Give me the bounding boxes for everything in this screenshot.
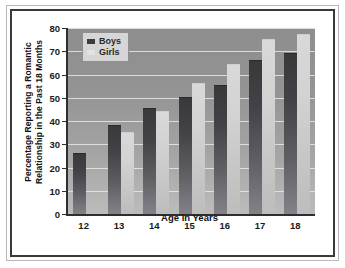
bar-girls-16: [227, 64, 240, 214]
y-tick-mark: [62, 121, 66, 122]
bar-girls-13: [121, 132, 134, 214]
y-tick-mark: [62, 168, 66, 169]
legend-item-boys: Boys: [87, 36, 121, 47]
y-tick-mark: [62, 28, 66, 29]
bar-boys-13: [108, 125, 121, 214]
bar-boys-14: [143, 108, 156, 214]
y-tick-mark: [62, 98, 66, 99]
bar-group: [249, 28, 275, 214]
y-tick-label: 70: [49, 46, 60, 57]
y-tick-label: 50: [49, 92, 60, 103]
chart-screenshot: Percentage Reporting a Romantic Relation…: [0, 0, 345, 268]
plot-canvas: Boys Girls: [66, 28, 315, 216]
bar-group: [214, 28, 240, 214]
legend-item-girls: Girls: [87, 47, 121, 58]
bar-boys-16: [214, 85, 227, 214]
bar-boys-15: [179, 97, 192, 214]
y-axis-title: Percentage Reporting a Romantic Relation…: [23, 12, 53, 212]
bar-boys-12: [73, 153, 86, 214]
y-tick-label: 30: [49, 139, 60, 150]
y-tick-mark: [62, 144, 66, 145]
legend: Boys Girls: [82, 32, 129, 62]
legend-swatch-boys-icon: [87, 39, 95, 44]
y-tick-label: 80: [49, 23, 60, 34]
legend-swatch-girls-icon: [87, 50, 95, 55]
y-tick-mark: [62, 191, 66, 192]
x-axis-title: Age in Years: [66, 212, 313, 223]
bar-group: [284, 28, 310, 214]
y-tick-label: 60: [49, 69, 60, 80]
y-axis-title-line2: Relationship in the Past 18 Months: [34, 12, 45, 212]
y-tick-label: 40: [49, 116, 60, 127]
y-tick-label: 20: [49, 162, 60, 173]
legend-label-girls: Girls: [99, 47, 120, 58]
bar-girls-15: [192, 83, 205, 214]
plot-area: Boys Girls 01020304050607080 12131415161…: [66, 28, 313, 218]
legend-label-boys: Boys: [99, 36, 121, 47]
y-tick-mark: [62, 51, 66, 52]
bar-boys-18: [284, 53, 297, 214]
y-tick-label: 0: [55, 209, 60, 220]
bar-girls-14: [156, 111, 169, 214]
bar-group: [179, 28, 205, 214]
y-tick-label: 10: [49, 185, 60, 196]
y-axis-title-line1: Percentage Reporting a Romantic: [23, 12, 34, 212]
bar-girls-17: [262, 39, 275, 214]
y-tick-mark: [62, 75, 66, 76]
bar-boys-17: [249, 60, 262, 214]
bar-group: [143, 28, 169, 214]
bar-girls-18: [297, 34, 310, 214]
